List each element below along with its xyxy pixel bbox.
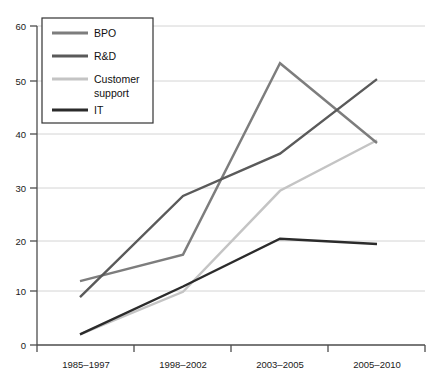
y-tick-label-60: 60 (15, 21, 26, 32)
y-axis-tick-labels: 60 50 40 30 20 10 0 (15, 21, 26, 351)
x-axis-tick-labels: 1985–1997 1998–2002 2003–2005 2005–2010 (62, 359, 401, 370)
x-tick-label-1: 1998–2002 (159, 359, 207, 370)
legend-label-bpo: BPO (94, 27, 116, 39)
x-tick-label-0: 1985–1997 (62, 359, 110, 370)
chart-legend: BPO R&D Customer support IT (42, 18, 153, 123)
x-tick-label-3: 2005–2010 (353, 359, 401, 370)
x-tick-label-2: 2003–2005 (256, 359, 304, 370)
y-tick-label-0: 0 (21, 340, 26, 351)
y-tick-label-30: 30 (15, 183, 26, 194)
y-tick-label-10: 10 (15, 286, 26, 297)
y-tick-label-40: 40 (15, 129, 26, 140)
y-tick-label-50: 50 (15, 76, 26, 87)
legend-label-customer-support-line2: support (94, 87, 129, 99)
y-tick-label-20: 20 (15, 236, 26, 247)
legend-label-customer-support: Customer (94, 73, 140, 85)
legend-label-rd: R&D (94, 50, 117, 62)
legend-label-it: IT (94, 104, 104, 116)
line-chart: 60 50 40 30 20 10 0 1985–1997 1998–2002 … (0, 0, 437, 383)
series-line-customer-support (80, 140, 377, 334)
chart-canvas: 60 50 40 30 20 10 0 1985–1997 1998–2002 … (0, 0, 437, 383)
